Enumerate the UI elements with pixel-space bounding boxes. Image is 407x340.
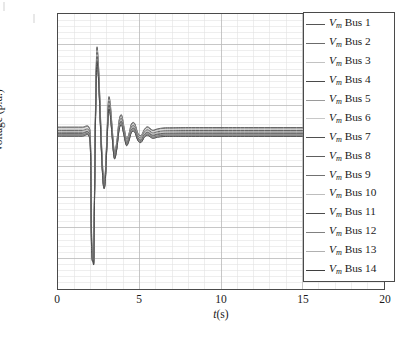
legend-bus-label: Bus 9 [342, 168, 371, 180]
legend-variable-symbol: V [329, 54, 336, 66]
legend-line-swatch [306, 100, 325, 101]
legend-line-swatch [306, 24, 325, 25]
scan-artifact-top-left [3, 2, 5, 11]
legend-bus-label: Bus 5 [342, 92, 371, 104]
legend-variable-symbol: V [329, 186, 336, 198]
legend-line-swatch [306, 137, 325, 138]
legend-bus-label: Bus 3 [342, 54, 371, 66]
legend-item-label: Vm Bus 7 [329, 131, 371, 145]
legend-item-label: Vm Bus 10 [329, 187, 376, 201]
legend-line-swatch [306, 194, 325, 195]
legend-item-label: Vm Bus 1 [329, 17, 371, 31]
x-tick-label: 20 [379, 293, 391, 305]
x-tick-label: 10 [215, 293, 227, 305]
legend-variable-symbol: V [329, 73, 336, 85]
legend-item-label: Vm Bus 13 [329, 244, 376, 258]
scan-artifact-top-right [33, 14, 35, 23]
legend-item[interactable]: Vm Bus 2 [306, 34, 391, 53]
legend-item[interactable]: Vm Bus 13 [306, 242, 391, 261]
legend-variable-symbol: V [329, 243, 336, 255]
legend-bus-label: Bus 1 [342, 16, 371, 28]
legend-bus-label: Bus 8 [342, 149, 371, 161]
legend-variable-symbol: V [329, 205, 336, 217]
legend-line-swatch [306, 270, 325, 271]
legend-item[interactable]: Vm Bus 5 [306, 91, 391, 110]
legend-bus-label: Bus 12 [342, 224, 377, 236]
legend-line-swatch [306, 43, 325, 44]
legend-line-swatch [306, 213, 325, 214]
legend-variable-symbol: V [329, 149, 336, 161]
legend-line-swatch [306, 175, 325, 176]
legend-bus-label: Bus 14 [342, 262, 377, 274]
legend-bus-label: Bus 6 [342, 111, 371, 123]
legend-variable-symbol: V [329, 111, 336, 123]
legend-variable-symbol: V [329, 16, 336, 28]
legend-item-label: Vm Bus 6 [329, 112, 371, 126]
figure-container: Voltage (p.u.) t(s) 00.20.40.60.811.21.4… [0, 0, 407, 340]
legend-bus-label: Bus 4 [342, 73, 371, 85]
x-tick-label: 5 [136, 293, 142, 305]
legend-variable-symbol: V [329, 168, 336, 180]
legend-item-label: Vm Bus 5 [329, 93, 371, 107]
legend-line-swatch [306, 251, 325, 252]
legend-bus-label: Bus 7 [342, 130, 371, 142]
legend-item[interactable]: Vm Bus 12 [306, 223, 391, 242]
legend-line-swatch [306, 232, 325, 233]
legend-item-label: Vm Bus 3 [329, 55, 371, 69]
legend-item-label: Vm Bus 8 [329, 150, 371, 164]
legend-item[interactable]: Vm Bus 4 [306, 72, 391, 91]
legend-variable-symbol: V [329, 224, 336, 236]
legend-item[interactable]: Vm Bus 9 [306, 166, 391, 185]
x-tick-label: 15 [297, 293, 309, 305]
legend-bus-label: Bus 13 [342, 243, 377, 255]
legend-item[interactable]: Vm Bus 1 [306, 15, 391, 34]
legend-bus-label: Bus 11 [342, 205, 376, 217]
legend-item-label: Vm Bus 14 [329, 263, 376, 277]
legend-item-label: Vm Bus 12 [329, 225, 376, 239]
legend-item-label: Vm Bus 11 [329, 206, 376, 220]
legend-item-label: Vm Bus 2 [329, 36, 371, 50]
legend-variable-symbol: V [329, 130, 336, 142]
legend-item[interactable]: Vm Bus 8 [306, 147, 391, 166]
legend-item-label: Vm Bus 4 [329, 74, 371, 88]
legend-variable-symbol: V [329, 262, 336, 274]
legend-line-swatch [306, 118, 325, 119]
x-axis-title-unit: (s) [217, 308, 229, 320]
legend-box: Vm Bus 1Vm Bus 2Vm Bus 3Vm Bus 4Vm Bus 5… [303, 12, 395, 282]
x-axis-title: t(s) [213, 308, 228, 320]
legend-line-swatch [306, 156, 325, 157]
legend-variable-symbol: V [329, 92, 336, 104]
legend-bus-label: Bus 10 [342, 186, 377, 198]
y-axis-title: Voltage (p.u.) [0, 89, 4, 152]
legend-item[interactable]: Vm Bus 11 [306, 204, 391, 223]
legend-variable-symbol: V [329, 35, 336, 47]
legend-item[interactable]: Vm Bus 7 [306, 128, 391, 147]
legend-item[interactable]: Vm Bus 10 [306, 185, 391, 204]
legend-line-swatch [306, 81, 325, 82]
x-tick-label: 0 [54, 293, 60, 305]
legend-item[interactable]: Vm Bus 14 [306, 261, 391, 280]
legend-item-label: Vm Bus 9 [329, 169, 371, 183]
legend-line-swatch [306, 62, 325, 63]
legend-bus-label: Bus 2 [342, 35, 371, 47]
legend-item[interactable]: Vm Bus 6 [306, 109, 391, 128]
legend-item[interactable]: Vm Bus 3 [306, 53, 391, 72]
